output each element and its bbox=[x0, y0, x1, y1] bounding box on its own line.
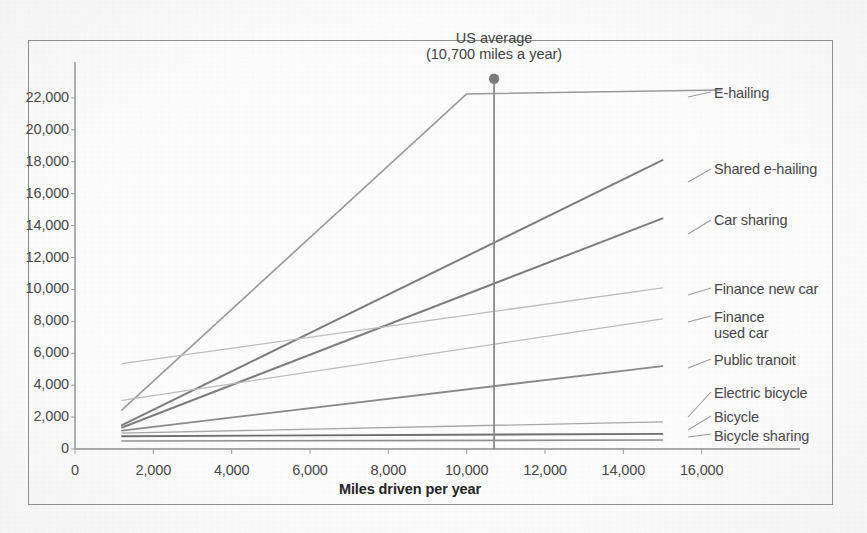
series-label-electric-bicycle: Electric bicycle bbox=[714, 385, 808, 401]
series-label-finance-new-car: Finance new car bbox=[714, 281, 818, 297]
y-tick-label: 22,000 bbox=[0, 89, 69, 105]
leader-lines bbox=[688, 92, 711, 437]
y-tick-label: 20,000 bbox=[0, 121, 69, 137]
series-line-public-transit bbox=[122, 366, 663, 431]
leader-line-finance-used-car bbox=[688, 316, 711, 322]
y-tick-label: 14,000 bbox=[0, 217, 69, 233]
series-line-bicycle-sharing bbox=[122, 440, 663, 441]
us-average-marker-dot bbox=[489, 74, 499, 84]
axis-lines bbox=[71, 62, 800, 454]
series-label-car-sharing: Car sharing bbox=[714, 212, 787, 228]
y-tick-label: 16,000 bbox=[0, 185, 69, 201]
y-tick-label: 0 bbox=[0, 440, 69, 456]
series-line-finance-new-car bbox=[122, 288, 663, 364]
x-tick-label: 6,000 bbox=[275, 462, 345, 478]
y-tick-label: 2,000 bbox=[0, 408, 69, 424]
x-tick-label: 0 bbox=[40, 462, 110, 478]
x-axis-title: Miles driven per year bbox=[245, 481, 575, 497]
annotation-layer bbox=[489, 74, 499, 449]
series-label-bicycle: Bicycle bbox=[714, 409, 759, 425]
leader-line-bicycle bbox=[688, 416, 711, 430]
x-tick-label: 4,000 bbox=[197, 462, 267, 478]
leader-line-finance-new-car bbox=[688, 288, 711, 295]
chart-plot-area bbox=[0, 0, 867, 533]
series-lines bbox=[122, 90, 721, 441]
series-line-e-hailing bbox=[122, 90, 721, 410]
series-line-shared-e-hailing bbox=[122, 160, 663, 425]
series-line-electric-bicycle bbox=[122, 422, 663, 433]
series-label-bicycle-sharing: Bicycle sharing bbox=[714, 428, 809, 444]
series-line-finance-used-car bbox=[122, 319, 663, 400]
series-label-public-transit: Public tranoit bbox=[714, 352, 796, 368]
x-tick-label: 2,000 bbox=[118, 462, 188, 478]
leader-line-car-sharing bbox=[688, 220, 711, 234]
y-tick-label: 8,000 bbox=[0, 312, 69, 328]
x-tick-label: 16,000 bbox=[667, 462, 737, 478]
x-tick-label: 10,000 bbox=[432, 462, 502, 478]
series-label-shared-e-hailing: Shared e-hailing bbox=[714, 161, 817, 177]
series-label-e-hailing: E-hailing bbox=[714, 85, 769, 101]
leader-line-shared-e-hailing bbox=[688, 169, 711, 182]
x-tick-label: 8,000 bbox=[353, 462, 423, 478]
leader-line-e-hailing bbox=[688, 92, 711, 97]
series-label-finance-used-car: Finance used car bbox=[714, 309, 768, 341]
y-tick-label: 12,000 bbox=[0, 249, 69, 265]
y-tick-label: 6,000 bbox=[0, 344, 69, 360]
leader-line-public-transit bbox=[688, 359, 711, 368]
x-tick-label: 14,000 bbox=[588, 462, 658, 478]
us-average-line2: (10,700 miles a year) bbox=[384, 46, 604, 62]
chart-figure: 02,0004,0006,0008,00010,00012,00014,0001… bbox=[0, 0, 867, 533]
y-tick-label: 10,000 bbox=[0, 280, 69, 296]
us-average-line1: US average bbox=[384, 30, 604, 46]
leader-line-electric-bicycle bbox=[688, 392, 711, 417]
leader-line-bicycle-sharing bbox=[688, 434, 711, 437]
y-tick-label: 18,000 bbox=[0, 153, 69, 169]
series-line-bicycle bbox=[122, 434, 663, 436]
us-average-annotation: US average (10,700 miles a year) bbox=[384, 30, 604, 62]
series-line-car-sharing bbox=[122, 218, 663, 427]
y-tick-label: 4,000 bbox=[0, 376, 69, 392]
x-tick-label: 12,000 bbox=[510, 462, 580, 478]
